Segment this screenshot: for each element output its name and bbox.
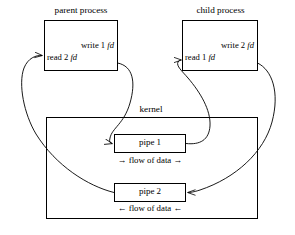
- pipe-2-flow-label: ← flow of data ←: [100, 204, 200, 213]
- parent-process-title: parent process: [44, 6, 118, 15]
- child-read-fd-em: fd: [208, 52, 215, 62]
- parent-read-fd-label: read 2 fd: [47, 53, 77, 62]
- pipe-1-flow-label: → flow of data →: [100, 156, 200, 165]
- pipe-1-label: pipe 1: [115, 138, 185, 147]
- child-write-fd-label: write 2 fd: [182, 41, 254, 50]
- parent-write-fd-em: fd: [107, 40, 114, 50]
- child-write-fd-text: write 2: [221, 40, 247, 50]
- parent-write-fd-text: write 1: [81, 40, 107, 50]
- child-write-fd-em: fd: [247, 40, 254, 50]
- pipe-diagram: parent process child process kernel writ…: [0, 0, 295, 235]
- parent-read-fd-text: read 2: [47, 52, 70, 62]
- child-read-fd-label: read 1 fd: [185, 53, 215, 62]
- kernel-title: kernel: [116, 105, 186, 114]
- parent-write-fd-label: write 1 fd: [44, 41, 114, 50]
- parent-read-fd-em: fd: [70, 52, 77, 62]
- child-read-fd-text: read 1: [185, 52, 208, 62]
- child-process-title: child process: [183, 6, 258, 15]
- diagram-vector-layer: [0, 0, 295, 235]
- pipe-2-label: pipe 2: [115, 187, 185, 196]
